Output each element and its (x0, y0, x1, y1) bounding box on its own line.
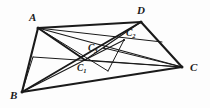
vertex-label-C2: C2 (126, 29, 136, 39)
vertex-label-subscript: 3 (94, 47, 97, 54)
vertex-dot-C (181, 66, 184, 69)
segment-side-DC (141, 22, 182, 67)
vertex-label-letter: A (29, 11, 36, 23)
vertex-label-letter: C (190, 61, 197, 73)
geometry-figure: ABCDC1C2C3 (0, 0, 210, 108)
vertex-dot-C3 (103, 47, 105, 49)
vertex-dot-C1 (84, 59, 86, 61)
segment-cev-D-C1 (85, 22, 141, 60)
vertex-label-C: C (190, 62, 197, 73)
vertex-label-B: B (10, 90, 17, 101)
vertex-dot-A (37, 27, 40, 30)
vertex-label-subscript: 1 (83, 67, 86, 74)
vertex-label-C1: C1 (77, 64, 87, 74)
segment-side-AB (22, 28, 38, 92)
vertex-label-A: A (29, 12, 36, 23)
vertex-label-letter: D (137, 4, 145, 16)
vertex-dot-B (21, 91, 24, 94)
vertex-label-D: D (137, 5, 145, 16)
vertex-dot-D (140, 21, 143, 24)
vertex-dot-C2 (123, 39, 125, 41)
segment-layer (22, 22, 182, 92)
vertex-label-subscript: 2 (132, 32, 135, 39)
vertex-label-C3: C3 (88, 44, 98, 54)
vertex-dot-layer (21, 21, 184, 94)
vertex-label-letter: B (10, 89, 17, 101)
